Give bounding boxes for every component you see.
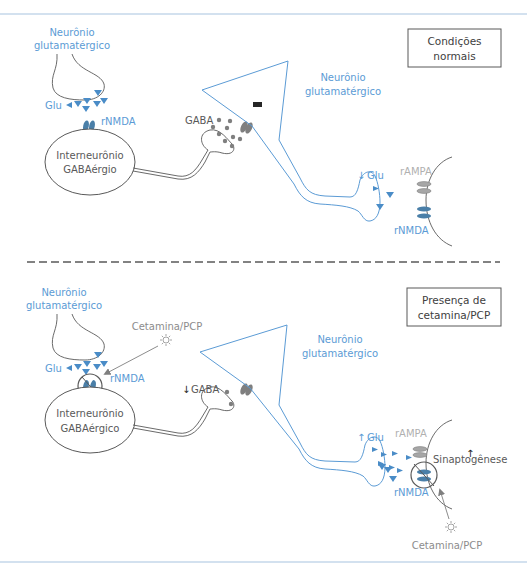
nmda-post-label: rNMDA [394,487,429,498]
ketamine-arrow-top [105,346,158,374]
glu-output-markers [372,447,412,482]
glu-output-label: Glu [367,432,384,443]
glu-label: Glu [45,100,62,111]
gaba-vesicles [211,118,242,148]
ampa-label: rAMPA [395,428,427,439]
nmda-post-label: rNMDA [394,225,429,236]
interneuron-body [45,129,135,195]
ketamine-icon [160,334,172,346]
ampa-label: rAMPA [400,166,432,177]
gaba-arrow: ↓ [182,384,190,395]
nmda-label: rNMDA [110,373,145,384]
inhibition-symbol [253,102,262,107]
synaptogenesis-label: Sinaptogênese [433,454,507,465]
ketamine-label-bottom: Cetamina/PCP [412,540,483,551]
gaba-label: GABA [191,384,219,395]
panel-normal: Condições normais Neurônio glutamatérgic… [34,27,501,246]
interneuron-label-2: GABAérgio [63,164,116,175]
pyramidal-neuron-label-2: glutamatérgico [302,348,378,359]
interneuron-label-1: Interneurônio [56,408,123,419]
interneuron-body [45,387,135,453]
glu-output-arrow: ↓ [357,170,365,181]
ampa-receptor [417,182,431,187]
pyramidal-neuron-label-1: Neurônio [320,72,365,83]
panel-ketamine: Presença de cetamina/PCP Neurônio glutam… [26,287,507,551]
pyramidal-neuron-label-2: glutamatérgico [305,86,381,97]
presynaptic-neuron-label-1: Neurônio [41,287,86,298]
condition-line1: Condições [427,35,481,47]
interneuron-label-2: GABAérgico [61,423,120,434]
nmda-post-receptor [417,207,431,212]
ampa-receptor [413,447,427,452]
glu-label: Glu [45,363,62,374]
presynaptic-neuron-label-2: glutamatérgico [26,300,102,311]
condition-line1: Presença de [422,294,486,306]
condition-line2: cetamina/PCP [418,309,491,321]
glu-markers [66,352,108,375]
gaba-label: GABA [185,115,213,126]
pyramidal-neuron-label-1: Neurônio [317,334,362,345]
glu-output-arrow: ↑ [357,432,365,443]
condition-line2: normais [433,50,475,62]
interneuron-axon [133,150,208,176]
pyramidal-neuron [202,61,380,221]
nmda-label: rNMDA [101,116,136,127]
ketamine-label-top: Cetamina/PCP [132,321,203,332]
interneuron-axon [133,407,208,433]
ketamine-icon [445,521,457,533]
presynaptic-neuron-label-2: glutamatérgico [34,40,110,51]
presynaptic-neuron-label-1: Neurônio [49,27,94,38]
ketamine-arrow-bottom [440,490,449,519]
glu-output-label: Glu [367,170,384,181]
diagram-canvas: Condições normais Neurônio glutamatérgic… [0,0,527,569]
interneuron-label-1: Interneurônio [56,150,123,161]
